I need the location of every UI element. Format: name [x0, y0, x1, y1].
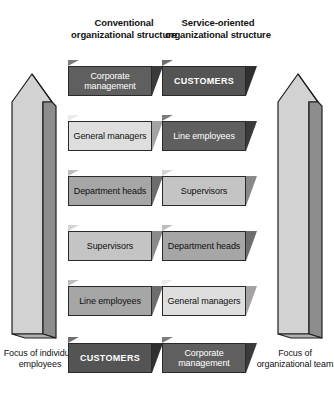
- box-front-face: CUSTOMERS: [162, 66, 246, 96]
- box-front-face: Line employees: [68, 286, 152, 316]
- box-front-face: Line employees: [162, 121, 246, 151]
- box-conventional-1: General managers: [68, 115, 164, 153]
- box-front-face: Corporate management: [162, 343, 246, 373]
- box-side-face: [246, 66, 257, 96]
- box-label: CUSTOMERS: [77, 353, 143, 364]
- box-label: CUSTOMERS: [171, 76, 237, 87]
- box-front-face: Supervisors: [162, 176, 246, 206]
- box-label: Department heads: [165, 241, 243, 252]
- box-side-face: [246, 343, 257, 373]
- box-label: General managers: [71, 131, 150, 142]
- box-label: Supervisors: [178, 186, 230, 197]
- org-structure-diagram: Conventional organizational structure Se…: [0, 0, 334, 409]
- box-conventional-5: CUSTOMERS: [68, 337, 164, 375]
- box-front-face: Supervisors: [68, 231, 152, 261]
- caption-focus-organizational-team: Focus of organizational team: [256, 348, 334, 370]
- box-conventional-4: Line employees: [68, 280, 164, 318]
- box-front-face: General managers: [68, 121, 152, 151]
- box-front-face: Department heads: [162, 231, 246, 261]
- arrow-up-left: [8, 70, 60, 342]
- box-conventional-2: Department heads: [68, 170, 164, 208]
- arrow-up-right: [274, 70, 326, 342]
- box-label: Line employees: [170, 131, 238, 142]
- box-label: Line employees: [76, 296, 144, 307]
- box-service-oriented-5: Corporate management: [162, 337, 258, 375]
- box-label: General managers: [165, 296, 244, 307]
- box-front-face: General managers: [162, 286, 246, 316]
- box-front-face: Department heads: [68, 176, 152, 206]
- box-service-oriented-1: Line employees: [162, 115, 258, 153]
- box-side-face: [246, 286, 257, 316]
- box-conventional-3: Supervisors: [68, 225, 164, 263]
- column-header-service-oriented: Service-oriented organizational structur…: [162, 17, 274, 40]
- box-label: Corporate management: [163, 348, 245, 369]
- box-label: Supervisors: [84, 241, 136, 252]
- box-service-oriented-0: CUSTOMERS: [162, 60, 258, 98]
- box-label: Department heads: [71, 186, 149, 197]
- box-side-face: [246, 231, 257, 261]
- box-conventional-0: Corporate management: [68, 60, 164, 98]
- box-side-face: [246, 121, 257, 151]
- box-front-face: Corporate management: [68, 66, 152, 96]
- box-service-oriented-4: General managers: [162, 280, 258, 318]
- box-label: Corporate management: [69, 71, 151, 92]
- box-side-face: [246, 176, 257, 206]
- box-service-oriented-2: Supervisors: [162, 170, 258, 208]
- box-service-oriented-3: Department heads: [162, 225, 258, 263]
- box-front-face: CUSTOMERS: [68, 343, 152, 373]
